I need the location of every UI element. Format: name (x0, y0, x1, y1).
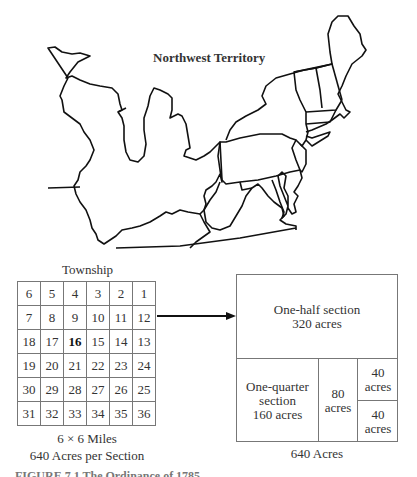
township-section-cell: 7 (18, 306, 41, 330)
township-section-cell: 20 (41, 354, 64, 378)
quarter-section: One-quarter section 160 acres (237, 359, 319, 442)
township-section-cell: 30 (18, 378, 41, 402)
township-section-cell: 33 (64, 402, 87, 426)
quarter-section-label-1: One-quarter (246, 380, 309, 394)
township-title: Township (62, 262, 113, 278)
forty-acre-plot-bottom: 40 acres (358, 401, 398, 442)
township-row: 654321 (18, 282, 156, 306)
township-section-cell: 8 (41, 306, 64, 330)
township-section-cell: 6 (18, 282, 41, 306)
township-section-cell: 1 (133, 282, 156, 306)
half-section: One-half section 320 acres (237, 275, 397, 359)
map-title: Northwest Territory (153, 50, 265, 66)
township-section-cell: 24 (133, 354, 156, 378)
township-section-cell: 11 (110, 306, 133, 330)
township-acres-caption: 640 Acres per Section (0, 448, 174, 464)
township-section-cell: 13 (133, 330, 156, 354)
township-section-cell: 3 (87, 282, 110, 306)
township-section-cell: 12 (133, 306, 156, 330)
forty-top-unit: acres (365, 380, 392, 394)
eighty-number: 80 (332, 387, 345, 401)
township-section-cell: 22 (87, 354, 110, 378)
township-row: 192021222324 (18, 354, 156, 378)
township-row: 302928272625 (18, 378, 156, 402)
township-section-cell: 27 (87, 378, 110, 402)
section-diagram: One-half section 320 acres One-quarter s… (236, 274, 398, 442)
township-section-cell: 18 (18, 330, 41, 354)
township-section-cell: 35 (110, 402, 133, 426)
township-section-cell: 34 (87, 402, 110, 426)
forty-bottom-number: 40 (372, 408, 385, 422)
quarter-section-acres: 160 acres (253, 408, 302, 422)
township-section-cell: 26 (110, 378, 133, 402)
township-section-cell: 14 (110, 330, 133, 354)
township-section-cell: 10 (87, 306, 110, 330)
township-section-cell: 31 (18, 402, 41, 426)
township-section-cell: 36 (133, 402, 156, 426)
township-grid: 6543217891011121817161514131920212223243… (17, 281, 156, 426)
eighty-acre-plot: 80 acres (319, 359, 358, 442)
township-section-cell: 25 (133, 378, 156, 402)
township-section-cell: 32 (41, 402, 64, 426)
half-section-label: One-half section (274, 303, 360, 317)
figure-caption: FIGURE 7.1 The Ordinance of 1785 (15, 469, 200, 477)
township-section-cell: 4 (64, 282, 87, 306)
forty-acre-plot-top: 40 acres (358, 359, 398, 401)
quarter-section-label-2: section (259, 394, 296, 408)
township-section-cell: 23 (110, 354, 133, 378)
forty-bottom-unit: acres (365, 422, 392, 436)
eighty-unit: acres (325, 401, 352, 415)
township-row: 313233343536 (18, 402, 156, 426)
township-section-cell: 15 (87, 330, 110, 354)
township-section-cell: 21 (64, 354, 87, 378)
township-section-cell: 5 (41, 282, 64, 306)
township-dimensions: 6 × 6 Miles (0, 431, 174, 447)
half-section-acres: 320 acres (292, 317, 341, 331)
township-section-cell: 28 (64, 378, 87, 402)
township-row: 181716151413 (18, 330, 156, 354)
township-section-cell: 16 (64, 330, 87, 354)
township-section-cell: 29 (41, 378, 64, 402)
township-section-cell: 2 (110, 282, 133, 306)
forty-top-number: 40 (372, 366, 385, 380)
northeast-us-map (0, 0, 417, 250)
section-total-acres: 640 Acres (236, 446, 398, 462)
township-section-cell: 17 (41, 330, 64, 354)
township-row: 789101112 (18, 306, 156, 330)
township-section-cell: 19 (18, 354, 41, 378)
township-section-cell: 9 (64, 306, 87, 330)
